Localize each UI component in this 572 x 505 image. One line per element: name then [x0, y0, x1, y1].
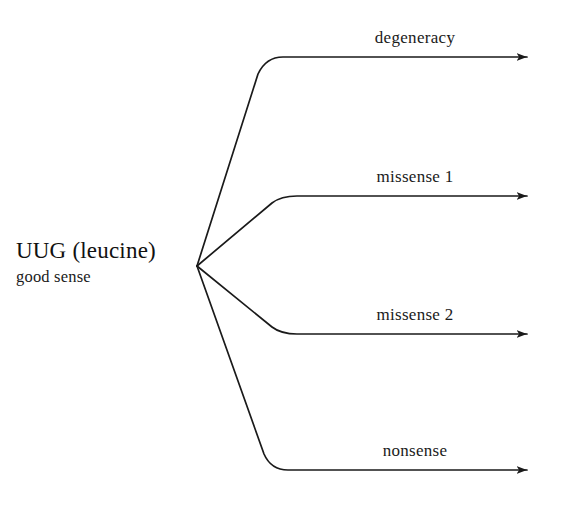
diagram-canvas: UUG (leucine) good sense degeneracy miss… — [0, 0, 572, 505]
source-sense-label: good sense — [16, 266, 191, 288]
branch-label-missense-1: missense 1 — [300, 167, 530, 187]
branch-line-nonsense — [197, 266, 527, 470]
branch-label-nonsense: nonsense — [300, 441, 530, 461]
source-codon-block: UUG (leucine) good sense — [16, 237, 191, 288]
branch-line-degeneracy — [197, 57, 527, 266]
branch-label-missense-2: missense 2 — [300, 305, 530, 325]
branch-label-degeneracy: degeneracy — [300, 28, 530, 48]
branch-line-missense-1 — [197, 196, 527, 266]
source-codon-label: UUG (leucine) — [16, 237, 191, 264]
